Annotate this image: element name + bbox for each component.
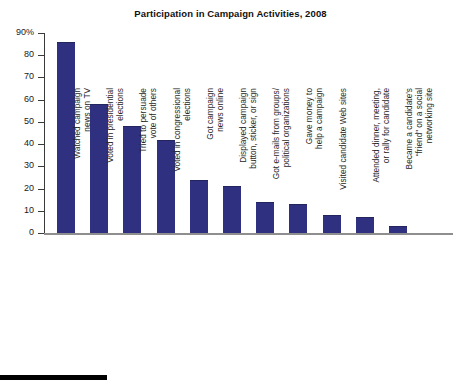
category-label: Displayed campaign button, sticker, or s… [238, 88, 258, 238]
category-label: Watched campaign news on TV [72, 88, 92, 238]
chart-title: Participation in Campaign Activities, 20… [0, 8, 461, 19]
y-axis-label: 50 [0, 116, 34, 126]
y-axis-label: 70 [0, 71, 34, 81]
category-label: Gave money to help a campaign [304, 88, 324, 238]
y-axis-label: 60 [0, 94, 34, 104]
y-axis-label: 40 [0, 138, 34, 148]
y-axis-label: 0 [0, 227, 34, 237]
y-axis-label: 10 [0, 205, 34, 215]
category-label: Voted in congressional elections [172, 88, 192, 238]
y-axis-label: 20 [0, 183, 34, 193]
y-axis-label: 90% [0, 27, 34, 37]
category-label: Became a candidate's “friend” on a socia… [404, 88, 434, 238]
category-label: Tried to persuade vote of others [138, 88, 158, 238]
y-axis-tick [38, 233, 44, 234]
y-axis-label: 30 [0, 160, 34, 170]
category-label: Got e-mails from groups/ political organ… [271, 88, 291, 238]
y-axis-label: 80 [0, 49, 34, 59]
category-label: Attended dinner, meeting, or rally for c… [371, 88, 391, 238]
category-label: Visited candidate Web sites [338, 88, 348, 238]
category-label: Voted in presidential elections [105, 88, 125, 238]
category-label: Got campaign news online [205, 88, 225, 238]
bottom-rule [0, 375, 107, 380]
